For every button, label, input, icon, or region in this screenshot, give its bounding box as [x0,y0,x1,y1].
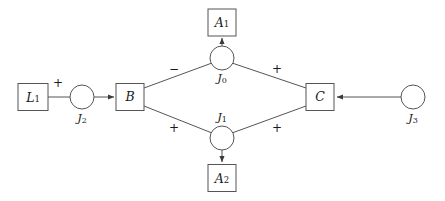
sign-label-b-j0: − [169,62,179,76]
sign-label-b-j1: + [169,121,179,135]
node-circle-j0 [210,46,234,70]
node-label-j0: J0 [215,71,227,85]
node-circle-j2 [70,85,94,109]
signed-influence-diagram: L1 J2 B A1 J0 J1 A2 C J3 + − + + + [0,0,445,201]
diagram-canvas: L1 J2 B A1 J0 J1 A2 C J3 + − + + + [0,0,445,201]
node-circle-j3 [401,85,425,109]
node-label-j3: J3 [406,111,418,125]
sign-label-l1-j2: + [53,76,63,90]
node-label-j1: J1 [215,110,227,124]
sign-label-j0-c: + [272,62,282,76]
node-label-c: C [315,89,325,104]
node-label-j2: J2 [75,111,87,125]
sign-label-j1-c: + [272,121,282,135]
node-label-b: B [124,89,134,104]
edge-j0-to-c [232,63,306,88]
edge-j1-to-c [232,106,306,133]
node-circle-j1 [210,126,234,150]
